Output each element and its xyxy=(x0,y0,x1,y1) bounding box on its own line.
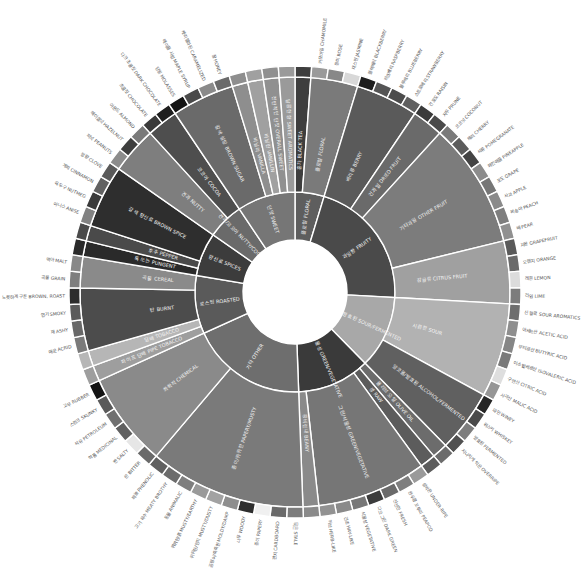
flavor-label: 육두구 NUTMEG xyxy=(54,181,87,200)
flavor-label: 체리 CHERRY xyxy=(465,119,491,143)
flavor-segment xyxy=(510,288,521,305)
flavor-segment xyxy=(287,507,304,518)
flavor-label: 맥아 MALT xyxy=(45,256,67,266)
flavor-label: 동물 ANIMALIC xyxy=(163,491,184,521)
flavor-segment xyxy=(262,67,279,80)
flavor-label: 판지 CARDBOARD xyxy=(271,521,281,561)
flavor-label: 노릇하게 구운 BROWN, ROAST xyxy=(2,292,66,300)
flavor-segment xyxy=(295,66,312,78)
flavor-label: 라즈베리 RASPBERRY xyxy=(383,38,407,82)
flavor-segment xyxy=(507,255,520,273)
flavor-segment xyxy=(69,288,80,305)
flavor-label: 페놀 PHENOLIC xyxy=(130,471,156,501)
flavor-label: 아니스 ANISE xyxy=(52,200,80,216)
flavor-label: 쓴 BITTER xyxy=(123,460,142,480)
flavor-label: 부티르산 BUTYRIC ACID xyxy=(518,343,569,362)
flavor-label: 스컹크 SKUNKY xyxy=(68,406,99,427)
flavor-label: 재 ASHY xyxy=(50,326,69,336)
flavor-label: 식물성 VEGETATIVE xyxy=(359,511,378,553)
flavor-label: 고무 RUBBER xyxy=(62,392,91,410)
flavor-label: 종이 PAPERY xyxy=(254,519,265,546)
flavor-label: 사과 APPLE xyxy=(503,184,527,200)
flavor-label: 다크 초콜릿 DARK CHOCOLATE xyxy=(119,51,163,108)
flavor-segment xyxy=(71,320,85,338)
flavor-label: 정향 CLOVE xyxy=(80,151,104,169)
flavor-label: 곰팡이/축축한 MOLDY/DAMP xyxy=(207,511,231,569)
flavor-label: 재스민 JASMINE xyxy=(350,37,365,70)
flavor-segment xyxy=(270,506,287,518)
flavor-wheel-chart: 플로럴 FLORAL홍차 BLACK TEA플로럴 FLORAL카모마일 CHA… xyxy=(0,0,587,579)
flavor-label: 연기 SMOKY xyxy=(40,309,66,318)
flavor-segment xyxy=(508,304,520,321)
flavor-label: 아세트산 ACETIC ACID xyxy=(521,326,569,341)
flavor-label: 자몽 GRAPEFRUIT xyxy=(520,234,559,249)
flavor-label: 건초 HAY-LIKE xyxy=(343,516,355,546)
flavor-segment xyxy=(303,506,320,518)
flavor-label: 짠 SALTY xyxy=(111,447,129,465)
flavor-label: 복숭아 PEACH xyxy=(510,199,540,215)
flavor-label: 와인 WINEY xyxy=(491,406,516,425)
flavor-segment xyxy=(245,68,263,82)
flavor-label: 당밀 MOLASSES xyxy=(154,65,177,98)
flavor-label: 아몬드 ALMOND xyxy=(108,101,137,130)
flavor-label: 피넛 PEANUTS xyxy=(85,132,114,156)
flavor-label: 오렌지 ORANGE xyxy=(523,254,557,265)
flavor-segment xyxy=(278,66,295,78)
flavor-segment xyxy=(311,67,328,80)
flavor-label: 다크 그린 DARK GREEN xyxy=(375,505,399,553)
flavor-label: 구연산 CITRIC ACID xyxy=(507,376,548,398)
flavor-segment xyxy=(253,503,271,516)
flavor-label: 약품 MEDICINAL xyxy=(87,434,119,462)
flavor-segment xyxy=(506,320,520,338)
flavor-label: 레몬 LEMON xyxy=(524,274,550,282)
flavor-segment xyxy=(327,68,345,82)
flavor-segment xyxy=(319,503,337,516)
flavor-label: 계피 CINNAMON xyxy=(61,162,95,185)
flavor-label: 허브 HERB-LIKE xyxy=(326,519,338,553)
flavor-label: 블랙베리 BLACKBERRY xyxy=(367,28,389,75)
flavor-label: 나무 WOODY xyxy=(235,515,248,543)
flavor-segment xyxy=(70,255,83,273)
flavor-label: 묵은 STALE xyxy=(292,522,298,546)
flavor-segment xyxy=(504,238,518,256)
flavor-label: 자두 PRUNE xyxy=(441,95,463,119)
flavor-label: 장미 ROSE xyxy=(334,43,345,66)
flavor-label: 곡물 GRAIN xyxy=(41,275,65,282)
flavor-label: 배 PEAR xyxy=(515,220,534,232)
flavor-label: 매운 ACRID xyxy=(48,343,73,356)
flavor-label: 위스키 WHISKEY xyxy=(482,421,514,447)
flavor-label: 건포도 RAISIN xyxy=(427,81,449,108)
flavor-label: 신 향료 SOUR AROMATICS xyxy=(524,309,581,320)
flavor-segment xyxy=(509,271,521,288)
flavor-label: 카모마일 CHAMOMILE xyxy=(317,18,329,64)
flavor-segment xyxy=(69,304,81,321)
flavor-label: 라임 LIME xyxy=(525,293,545,300)
flavor-segment xyxy=(69,271,81,288)
flavor-label: 포도 GRAPE xyxy=(496,168,520,184)
flavor-label: 사과산 MALIC ACID xyxy=(499,391,539,415)
flavor-label: 신선한 FRESH xyxy=(392,498,410,526)
center-hole xyxy=(243,240,347,344)
flavor-label: 꿀 HONEY xyxy=(211,53,223,75)
